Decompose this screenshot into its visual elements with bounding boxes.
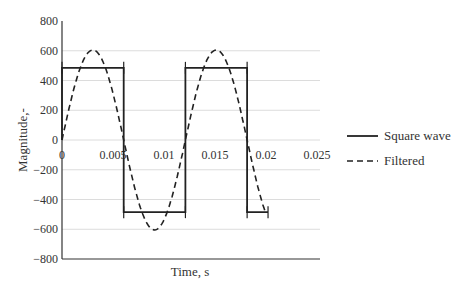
y-tick-label: −800 [33, 252, 58, 266]
y-tick-label: 400 [40, 74, 58, 88]
y-tick-labels: 8006004002000−200−400−600−800 [33, 14, 58, 266]
y-axis-label: Magnitude,- [15, 108, 30, 172]
chart: 8006004002000−200−400−600−800 00.0050.01… [0, 0, 459, 289]
grid-lines [62, 51, 320, 230]
x-tick-labels: 00.0050.010.0150.020.025 [59, 148, 331, 162]
y-tick-label: 600 [40, 44, 58, 58]
x-tick-label: 0.005 [100, 148, 127, 162]
x-tick-label: 0.02 [256, 148, 277, 162]
x-axis-label: Time, s [171, 264, 210, 279]
y-tick-label: 0 [52, 133, 58, 147]
y-tick-label: −400 [33, 193, 58, 207]
y-tick-label: −200 [33, 163, 58, 177]
legend: Square wave Filtered [347, 128, 451, 168]
x-tick-label: 0.01 [154, 148, 175, 162]
legend-label-square-wave: Square wave [384, 128, 451, 143]
y-tick-label: −600 [33, 222, 58, 236]
x-tick-label: 0.025 [304, 148, 331, 162]
y-tick-label: 800 [40, 14, 58, 28]
legend-label-filtered: Filtered [384, 153, 425, 168]
y-tick-label: 200 [40, 103, 58, 117]
x-tick-label: 0.015 [202, 148, 229, 162]
